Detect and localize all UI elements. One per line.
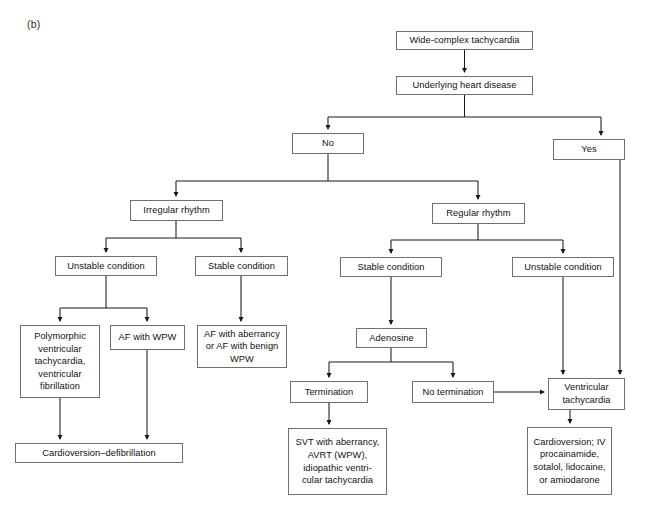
node-polymorphic-vt-vf[interactable]: Polymorphic ventricular tachycardia, ven… — [20, 325, 100, 398]
node-underlying-heart-disease[interactable]: Underlying heart disease — [396, 76, 533, 95]
node-af-with-aberrancy[interactable]: AF with aberrancy or AF with benign WPW — [197, 325, 287, 368]
node-af-with-wpw[interactable]: AF with WPW — [110, 325, 185, 350]
node-svt-with-aberrancy[interactable]: SVT with aberrancy, AVRT (WPW), idiopath… — [288, 428, 387, 495]
node-ventricular-tachycardia[interactable]: Ventricular tachycardia — [548, 378, 625, 410]
node-irregular-rhythm[interactable]: Irregular rhythm — [130, 200, 223, 221]
node-stable-condition-regular[interactable]: Stable condition — [340, 257, 442, 277]
node-cardioversion-defibrillation[interactable]: Cardioversion–defibrillation — [15, 443, 183, 463]
node-unstable-condition-regular[interactable]: Unstable condition — [512, 257, 614, 277]
node-no[interactable]: No — [292, 133, 364, 154]
node-cardioversion-iv-drugs[interactable]: Cardioversion; IV procainamide, sotalol,… — [527, 427, 612, 495]
node-termination[interactable]: Termination — [290, 381, 368, 403]
node-adenosine[interactable]: Adenosine — [356, 328, 427, 348]
node-wide-complex-tachycardia[interactable]: Wide-complex tachycardia — [396, 31, 533, 50]
node-stable-condition-irregular[interactable]: Stable condition — [195, 256, 288, 276]
node-unstable-condition-irregular[interactable]: Unstable condition — [55, 256, 157, 276]
node-yes[interactable]: Yes — [553, 139, 625, 160]
flowchart-canvas: Wide-complex tachycardia Underlying hear… — [0, 0, 645, 519]
node-no-termination[interactable]: No termination — [412, 381, 494, 403]
node-regular-rhythm[interactable]: Regular rhythm — [432, 203, 525, 224]
